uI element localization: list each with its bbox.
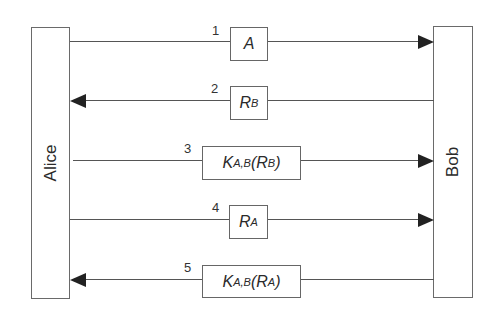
message-2-sub: B: [251, 97, 258, 109]
arrow-right-icon: [418, 35, 434, 49]
message-5-number: 5: [184, 260, 191, 275]
message-4-number: 4: [212, 200, 219, 215]
arrow-right-icon: [418, 213, 434, 227]
message-3-key-sub: A,B: [233, 157, 251, 169]
message-4-content: RA: [229, 205, 268, 239]
bob-box: Bob: [433, 26, 473, 298]
message-1-number: 1: [212, 23, 219, 38]
message-1-content: A: [230, 27, 268, 61]
arrow-left-icon: [70, 94, 86, 108]
message-5-key: K: [223, 273, 234, 291]
message-4-sub: A: [251, 216, 258, 228]
message-5-key-sub: A,B: [233, 276, 251, 288]
message-5-arg: R: [256, 273, 268, 291]
alice-label: Alice: [41, 145, 61, 182]
message-3-arg: R: [256, 154, 268, 172]
message-3-key: K: [223, 154, 234, 172]
alice-box: Alice: [31, 27, 70, 299]
arrow-left-icon: [70, 273, 86, 287]
message-2-content: RB: [230, 86, 268, 120]
message-5-content: KA,B(RA): [202, 265, 301, 298]
arrow-right-icon: [418, 154, 434, 168]
message-4-base: R: [239, 213, 251, 231]
bob-label: Bob: [443, 147, 463, 177]
message-3-content: KA,B(RB): [202, 146, 301, 180]
message-2-base: R: [240, 94, 252, 112]
message-1-base: A: [244, 35, 255, 53]
message-2-number: 2: [211, 81, 218, 96]
message-3-number: 3: [184, 141, 191, 156]
